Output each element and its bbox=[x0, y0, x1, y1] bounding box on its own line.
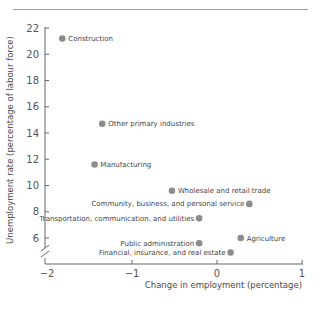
y-tick-label: 18 bbox=[26, 75, 39, 86]
data-point: Financial, insurance, and real estate bbox=[99, 249, 234, 257]
y-tick-label: 16 bbox=[26, 101, 39, 112]
marker-dot bbox=[169, 187, 176, 194]
x-tick-label: −2 bbox=[40, 268, 55, 279]
y-tick-label: 22 bbox=[26, 23, 39, 34]
marker-dot bbox=[91, 161, 98, 168]
x-tick-label: 0 bbox=[214, 268, 220, 279]
y-tick-label: 14 bbox=[26, 128, 39, 139]
data-point: Other primary industries bbox=[99, 120, 195, 128]
point-label: Wholesale and retail trade bbox=[178, 187, 271, 195]
data-point: Construction bbox=[59, 35, 113, 43]
data-point: Manufacturing bbox=[91, 161, 151, 169]
data-point: Wholesale and retail trade bbox=[169, 187, 271, 195]
axis-break-mark bbox=[41, 251, 49, 257]
data-points: ConstructionOther primary industriesManu… bbox=[39, 35, 286, 257]
point-label: Construction bbox=[68, 35, 113, 43]
x-tick-label: −1 bbox=[125, 268, 140, 279]
point-label: Manufacturing bbox=[101, 161, 152, 169]
marker-dot bbox=[196, 240, 203, 247]
marker-dot bbox=[246, 201, 253, 208]
y-tick-label: 12 bbox=[26, 154, 39, 165]
data-point: Community, business, and personal servic… bbox=[91, 200, 252, 208]
point-label: Other primary industries bbox=[108, 120, 195, 128]
data-point: Transportation, communication, and utili… bbox=[39, 215, 203, 223]
point-label: Financial, insurance, and real estate bbox=[99, 249, 226, 257]
y-tick-label: 10 bbox=[26, 180, 39, 191]
data-point: Agriculture bbox=[238, 235, 286, 243]
x-tick-label: 1 bbox=[299, 268, 305, 279]
point-label: Transportation, communication, and utili… bbox=[39, 215, 195, 223]
scatter-chart: 6810121416182022−2−101 ConstructionOther… bbox=[0, 0, 319, 309]
y-tick-label: 8 bbox=[33, 206, 39, 217]
x-axis-title: Change in employment (percentage) bbox=[145, 280, 302, 290]
marker-dot bbox=[238, 235, 245, 242]
point-label: Public administration bbox=[120, 240, 194, 248]
marker-dot bbox=[99, 121, 106, 128]
marker-dot bbox=[196, 215, 203, 222]
point-label: Community, business, and personal servic… bbox=[91, 200, 244, 208]
y-tick-label: 6 bbox=[33, 233, 39, 244]
y-tick-label: 20 bbox=[26, 49, 39, 60]
marker-dot bbox=[59, 35, 66, 42]
point-label: Agriculture bbox=[247, 235, 285, 243]
marker-dot bbox=[227, 249, 234, 256]
y-axis-title: Unemployment rate (percentage of labour … bbox=[5, 36, 15, 244]
data-point: Public administration bbox=[120, 240, 202, 248]
